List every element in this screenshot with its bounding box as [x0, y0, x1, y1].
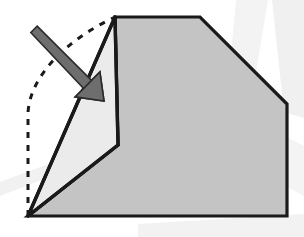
- fold-diagram-container: Origami fold step diagram: [0, 0, 304, 237]
- fold-diagram-svg: Origami fold step diagram: [0, 0, 304, 237]
